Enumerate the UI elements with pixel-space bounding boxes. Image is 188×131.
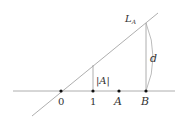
point-A-dot (117, 89, 120, 92)
label-B: B (140, 95, 149, 108)
label-1: 1 (90, 96, 96, 107)
label-A: A (113, 95, 122, 108)
label-abs-A: |A| (96, 75, 110, 87)
point-1-dot (91, 89, 94, 92)
diagram-canvas: 0 1 A B |A| d LA (0, 0, 188, 131)
label-0: 0 (58, 96, 64, 107)
label-d: d (150, 52, 157, 65)
point-0-dot (59, 89, 62, 92)
point-B-dot (144, 89, 147, 92)
label-LA: LA (124, 13, 137, 25)
